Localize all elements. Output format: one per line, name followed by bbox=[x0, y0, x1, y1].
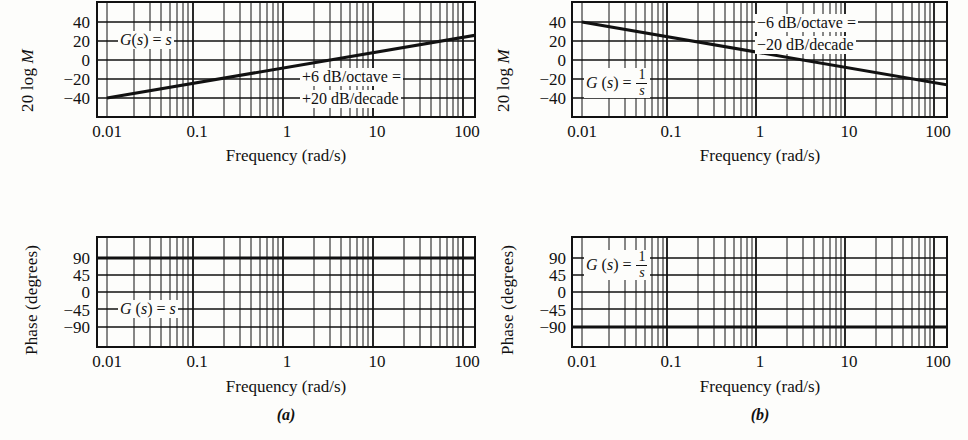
xtick-b-mag-0: 0.01 bbox=[552, 123, 612, 140]
panel-a-phase-plot bbox=[96, 236, 476, 350]
ytick-b-ph-4: −90 bbox=[516, 319, 566, 336]
ylabel-symbol: M bbox=[18, 49, 37, 63]
ytick-b-mag-4: −40 bbox=[516, 90, 566, 107]
caption-b: (b) bbox=[720, 406, 800, 424]
xtick-b-ph-4: 100 bbox=[908, 353, 968, 370]
panel-a-magnitude-ylabel: 20 log M bbox=[18, 49, 38, 112]
ytick-b-mag-0: 40 bbox=[522, 14, 566, 31]
ytick-a-mag-0: 40 bbox=[46, 14, 90, 31]
xtick-b-ph-1: 0.1 bbox=[641, 353, 701, 370]
xtick-a-ph-3: 10 bbox=[347, 353, 407, 370]
xtick-a-mag-3: 10 bbox=[347, 123, 407, 140]
ytick-a-ph-2: 0 bbox=[46, 284, 90, 301]
ytick-a-mag-3: −20 bbox=[40, 71, 90, 88]
ylabel-text: 20 log bbox=[494, 63, 513, 112]
annot-a-mag-equation: G(s) = s bbox=[118, 31, 174, 49]
panel-a-magnitude-xlabel: Frequency (rad/s) bbox=[186, 146, 386, 166]
ytick-b-mag-3: −20 bbox=[516, 71, 566, 88]
panel-b-phase-ylabel: Phase (degrees) bbox=[498, 245, 518, 355]
annot-a-ph-equation: G (s) = s bbox=[118, 300, 178, 318]
panel-a-magnitude-plot bbox=[96, 1, 476, 121]
ylabel-text: 20 log bbox=[18, 63, 37, 112]
xtick-b-mag-1: 0.1 bbox=[641, 123, 701, 140]
annot-b-mag-slope-line1: −6 dB/octave = bbox=[755, 14, 858, 32]
xtick-a-mag-2: 1 bbox=[257, 123, 317, 140]
annot-a-mag-slope-line1: +6 dB/octave = bbox=[300, 68, 403, 86]
xtick-a-ph-2: 1 bbox=[257, 353, 317, 370]
ytick-b-ph-3: −45 bbox=[516, 302, 566, 319]
xtick-b-ph-2: 1 bbox=[730, 353, 790, 370]
ytick-b-mag-2: 0 bbox=[522, 52, 566, 69]
ytick-b-ph-2: 0 bbox=[522, 284, 566, 301]
ytick-b-ph-1: 45 bbox=[522, 267, 566, 284]
panel-a-phase-ylabel: Phase (degrees) bbox=[22, 245, 42, 355]
panel-b-phase-xlabel: Frequency (rad/s) bbox=[660, 377, 860, 397]
panel-b-magnitude-xlabel: Frequency (rad/s) bbox=[660, 146, 860, 166]
ytick-a-ph-1: 45 bbox=[46, 267, 90, 284]
xtick-b-mag-4: 100 bbox=[908, 123, 968, 140]
caption-a: (a) bbox=[246, 406, 326, 424]
annot-b-ph-equation: G (s) = 1s bbox=[584, 250, 650, 280]
xtick-a-ph-4: 100 bbox=[437, 353, 497, 370]
xtick-a-ph-0: 0.01 bbox=[77, 353, 137, 370]
ytick-a-mag-1: 20 bbox=[46, 33, 90, 50]
annot-a-mag-slope-line2: +20 dB/decade bbox=[300, 90, 401, 108]
annot-b-mag-slope-line2: −20 dB/decade bbox=[755, 36, 856, 54]
panel-a-phase-xlabel: Frequency (rad/s) bbox=[186, 377, 386, 397]
ytick-a-ph-4: −90 bbox=[40, 319, 90, 336]
xtick-b-mag-2: 1 bbox=[730, 123, 790, 140]
xtick-a-ph-1: 0.1 bbox=[167, 353, 227, 370]
xtick-b-ph-3: 10 bbox=[819, 353, 879, 370]
ytick-a-mag-4: −40 bbox=[40, 90, 90, 107]
bode-plot-figure: 20 log M 40 20 0 −20 −40 bbox=[0, 0, 968, 440]
ytick-a-ph-3: −45 bbox=[40, 302, 90, 319]
panel-b-magnitude-ylabel: 20 log M bbox=[494, 49, 514, 112]
ytick-b-mag-1: 20 bbox=[522, 33, 566, 50]
ytick-b-ph-0: 90 bbox=[522, 250, 566, 267]
xtick-b-mag-3: 10 bbox=[819, 123, 879, 140]
xtick-a-mag-0: 0.01 bbox=[77, 123, 137, 140]
ytick-a-ph-0: 90 bbox=[46, 250, 90, 267]
ylabel-symbol: M bbox=[494, 49, 513, 63]
ytick-a-mag-2: 0 bbox=[46, 52, 90, 69]
annot-b-mag-equation: G (s) = 1s bbox=[584, 68, 650, 98]
xtick-b-ph-0: 0.01 bbox=[552, 353, 612, 370]
xtick-a-mag-1: 0.1 bbox=[167, 123, 227, 140]
xtick-a-mag-4: 100 bbox=[437, 123, 497, 140]
